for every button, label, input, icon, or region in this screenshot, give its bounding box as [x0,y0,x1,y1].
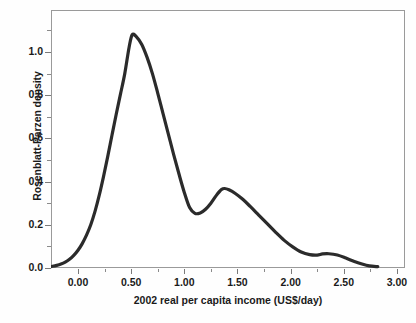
x-tick-major [344,269,345,274]
x-tick-major [291,269,292,274]
x-tick-major [237,269,238,274]
y-tick-label: 0.0 [13,262,43,272]
x-tick-minor [105,269,106,272]
x-tick-label: 1.50 [217,277,257,288]
x-tick-minor [317,269,318,272]
x-tick-label: 2.50 [324,277,364,288]
density-chart-figure: 0.00.20.40.60.81.0 0.000.501.001.502.002… [0,0,416,323]
x-tick-minor [370,269,371,272]
x-axis-title: 2002 real per capita income (US$/day) [51,294,405,306]
x-tick-major [78,269,79,274]
x-tick-minor [211,269,212,272]
density-curve-svg [51,10,405,269]
x-tick-label: 1.00 [164,277,204,288]
x-tick-major [131,269,132,274]
x-tick-minor [264,269,265,272]
x-tick-label: 0.00 [58,277,98,288]
x-tick-label: 0.50 [111,277,151,288]
x-tick-label: 3.00 [377,277,416,288]
x-tick-label: 2.00 [271,277,311,288]
x-tick-major [397,269,398,274]
x-tick-major [184,269,185,274]
y-axis-title: Rosenblatt-Parzen density [31,36,43,236]
x-tick-minor [158,269,159,272]
density-curve-line [51,34,378,267]
